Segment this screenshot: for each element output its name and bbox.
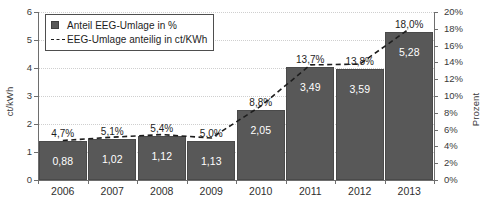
y-tick-label-left: 0 <box>27 175 32 185</box>
y-tick-label-left: 4 <box>27 63 32 73</box>
y-tick-label-right: 18% <box>444 24 463 34</box>
chart-legend: Anteil EEG-Umlage in % EEG-Umlage anteil… <box>45 14 214 51</box>
x-tick <box>88 180 89 184</box>
y-tick-right <box>434 62 438 63</box>
y-tick-label-right: 0% <box>444 175 458 185</box>
y-tick-label-right: 4% <box>444 141 458 151</box>
y-tick-right <box>434 130 438 131</box>
y-tick-right <box>434 113 438 114</box>
x-tick <box>385 180 386 184</box>
y-tick-right <box>434 12 438 13</box>
y-tick-right <box>434 96 438 97</box>
y-tick-label-right: 10% <box>444 91 463 101</box>
dashed-line-icon <box>51 39 67 40</box>
y-tick-label-right: 8% <box>444 108 458 118</box>
chart-container: ct/kWh Prozent 0123456 0%2%4%6%8%10%12%1… <box>0 0 483 206</box>
x-tick <box>286 180 287 184</box>
x-tick <box>434 180 435 184</box>
x-axis-label: 2013 <box>379 185 439 197</box>
y-tick-label-left: 6 <box>27 7 32 17</box>
x-tick <box>38 180 39 184</box>
legend-label-bars: Anteil EEG-Umlage in % <box>67 20 177 31</box>
y-tick-label-right: 16% <box>444 41 463 51</box>
y-tick-label-left: 2 <box>27 119 32 129</box>
y-tick-label-left: 1 <box>27 147 32 157</box>
legend-label-line: EEG-Umlage anteilig in ct/KWh <box>67 34 207 45</box>
y-tick-right <box>434 146 438 147</box>
y-tick-right <box>434 163 438 164</box>
legend-item-line: EEG-Umlage anteilig in ct/KWh <box>51 32 207 46</box>
y-tick-label-right: 14% <box>444 57 463 67</box>
y-axis-left-title: ct/kWh <box>4 74 15 130</box>
y-tick-label-left: 3 <box>27 91 32 101</box>
x-tick <box>236 180 237 184</box>
legend-item-bars: Anteil EEG-Umlage in % <box>51 18 207 32</box>
y-tick-right <box>434 79 438 80</box>
y-tick-label-right: 2% <box>444 158 458 168</box>
square-swatch-icon <box>51 21 67 29</box>
y-tick-label-right: 12% <box>444 74 463 84</box>
y-axis-right-title: Prozent <box>470 82 481 138</box>
y-tick-label-right: 6% <box>444 125 458 135</box>
y-tick-label-right: 20% <box>444 7 463 17</box>
x-tick <box>137 180 138 184</box>
x-tick <box>335 180 336 184</box>
x-tick <box>187 180 188 184</box>
y-tick-label-left: 5 <box>27 35 32 45</box>
